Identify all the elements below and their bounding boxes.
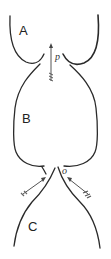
chamber-b-right-wall: [64, 65, 97, 166]
arrow-o-left-head-icon: [41, 177, 46, 182]
chamber-diagram: A p B C o: [0, 0, 111, 259]
chamber-c: C: [14, 167, 100, 248]
chamber-b-left-lip: [42, 167, 46, 174]
arrow-o-label: o: [62, 165, 67, 176]
arrow-p: p: [49, 43, 60, 81]
chamber-a-right-wall: [63, 15, 98, 64]
chamber-b-label: B: [22, 111, 31, 126]
chamber-a-label: A: [19, 23, 28, 38]
chamber-c-label: C: [28, 219, 37, 234]
arrows-o: o: [21, 165, 91, 198]
arrow-o-right-feather-icon: [83, 191, 91, 198]
arrow-p-feather-icon: [49, 73, 53, 81]
chamber-c-right-wall: [58, 167, 100, 248]
chamber-c-left-wall: [14, 168, 55, 246]
chamber-b: B: [14, 64, 98, 174]
arrow-p-head-icon: [49, 43, 53, 48]
arrow-p-label: p: [54, 51, 60, 62]
